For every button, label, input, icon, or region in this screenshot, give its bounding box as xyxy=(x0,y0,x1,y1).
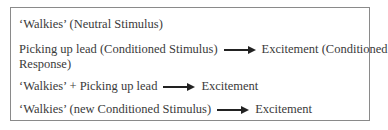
pairing-line: ‘Walkies’ + Picking up leadExcitement xyxy=(19,79,258,94)
new-conditioned-stimulus-text: ‘Walkies’ (new Conditioned Stimulus) xyxy=(19,102,211,116)
neutral-stimulus-line: ‘Walkies’ (Neutral Stimulus) xyxy=(19,17,163,32)
arrow-right-icon xyxy=(163,82,195,92)
conditioned-stimulus-line: Picking up lead (Conditioned Stimulus)Ex… xyxy=(19,42,388,57)
conditioned-response-continuation-text: Response) xyxy=(19,57,71,71)
conditioned-response-text: Excitement (Conditioned xyxy=(262,42,388,56)
neutral-stimulus-text: ‘Walkies’ (Neutral Stimulus) xyxy=(19,17,163,31)
pairing-stimulus-text: ‘Walkies’ + Picking up lead xyxy=(19,79,157,93)
conditioning-diagram-box: ‘Walkies’ (Neutral Stimulus) Picking up … xyxy=(10,7,370,121)
conditioned-response-continuation: Response) xyxy=(19,57,71,72)
pairing-response-text: Excitement xyxy=(201,79,258,93)
arrow-right-icon xyxy=(224,45,256,55)
new-conditioned-stimulus-line: ‘Walkies’ (new Conditioned Stimulus)Exci… xyxy=(19,102,312,117)
arrow-right-icon xyxy=(217,105,249,115)
new-response-text: Excitement xyxy=(255,102,312,116)
conditioned-stimulus-text: Picking up lead (Conditioned Stimulus) xyxy=(19,42,218,56)
